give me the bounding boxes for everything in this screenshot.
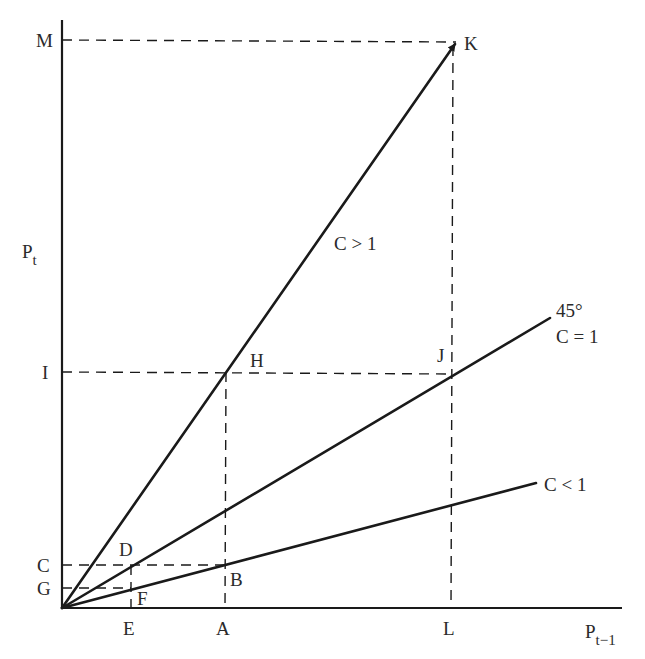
y-axis-label: Pt [22, 241, 38, 268]
guide-M-K [62, 40, 456, 42]
guide-H-A [225, 372, 226, 608]
x-tick-E: E [123, 618, 135, 639]
line-c-less-than-1 [62, 483, 536, 608]
y-tick-C: C [37, 555, 50, 576]
guide-I-J [62, 372, 452, 374]
y-tick-M: M [36, 30, 53, 51]
point-label-F: F [137, 588, 148, 609]
point-label-H: H [250, 350, 264, 371]
point-label-J: J [437, 345, 444, 366]
x-tick-A: A [216, 618, 230, 639]
line-c-equals-1 [62, 318, 550, 608]
line-label-c-greater-than-1: C > 1 [334, 233, 376, 254]
line-label-45-degree: 45° [556, 300, 583, 321]
y-tick-I: I [42, 362, 48, 383]
x-tick-L: L [443, 618, 455, 639]
x-axis-label: Pt−1 [585, 621, 616, 648]
line-label-c-equals-1: C = 1 [556, 326, 598, 347]
point-label-K: K [464, 33, 478, 54]
line-label-c-less-than-1: C < 1 [544, 474, 586, 495]
point-label-B: B [230, 569, 243, 590]
y-tick-G: G [37, 578, 51, 599]
cobweb-diagram: Pt Pt−1 M I C G E A L K H J D B F C > 1 … [0, 0, 645, 659]
guide-K-L [451, 46, 453, 608]
line-c-greater-than-1 [62, 44, 455, 608]
point-label-D: D [119, 539, 133, 560]
